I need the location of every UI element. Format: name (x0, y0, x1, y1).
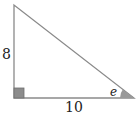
horizontal-side-label: 10 (65, 99, 83, 115)
right-angle-marker (14, 88, 24, 98)
angle-label: e (110, 85, 117, 99)
vertical-side-label: 8 (2, 46, 11, 62)
angle-e-marker (120, 90, 134, 98)
right-triangle-diagram: 8 10 e (0, 0, 137, 116)
